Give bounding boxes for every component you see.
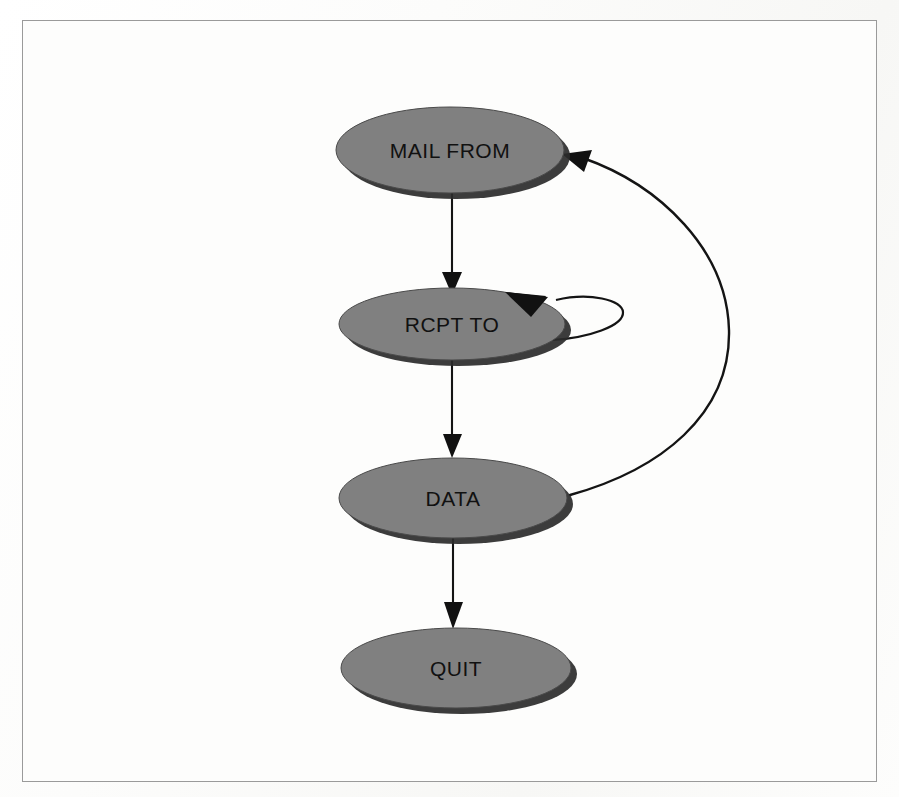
node-data-label: DATA: [426, 487, 481, 510]
edge-data-to-quit-arrowhead: [444, 602, 463, 629]
state-diagram: MAIL FROM RCPT TO DATA QUIT: [0, 0, 899, 797]
node-mail-from-label: MAIL FROM: [390, 139, 510, 162]
edge-rcpt-to-to-data: [443, 360, 462, 458]
edge-data-to-quit: [444, 538, 463, 629]
edge-data-to-mail-from-path: [570, 158, 729, 495]
edge-data-to-mail-from: [562, 150, 729, 495]
diagram-page: MAIL FROM RCPT TO DATA QUIT: [0, 0, 899, 797]
node-mail-from[interactable]: MAIL FROM: [336, 107, 570, 199]
node-quit-label: QUIT: [430, 657, 482, 680]
node-rcpt-to-label: RCPT TO: [405, 313, 500, 336]
edge-mail-from-to-rcpt-to: [442, 193, 462, 295]
node-quit[interactable]: QUIT: [341, 628, 577, 714]
node-data[interactable]: DATA: [339, 458, 573, 544]
edge-rcpt-to-to-data-arrowhead: [443, 434, 462, 458]
